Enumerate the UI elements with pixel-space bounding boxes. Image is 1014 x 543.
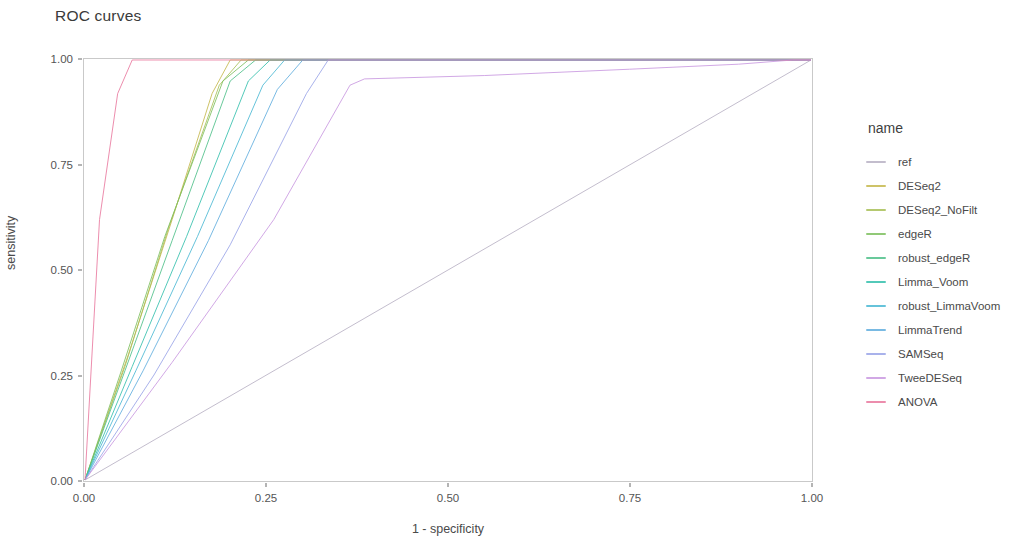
legend-item-limma-voom[interactable]: Limma_Voom bbox=[866, 270, 1014, 294]
x-axis-title: 1 - specificity bbox=[412, 522, 484, 536]
y-tick-label: 1.00 bbox=[27, 53, 73, 65]
x-tick-mark bbox=[84, 483, 85, 487]
legend-color-swatch bbox=[866, 233, 886, 235]
x-tick-mark bbox=[812, 483, 813, 487]
y-tick-label: 0.75 bbox=[27, 159, 73, 171]
y-tick-label: 0.00 bbox=[27, 475, 73, 487]
legend-item-label: DESeq2 bbox=[898, 180, 941, 192]
legend-title: name bbox=[868, 120, 1014, 136]
legend-color-swatch bbox=[866, 209, 886, 211]
legend-item-robust-edger[interactable]: robust_edgeR bbox=[866, 246, 1014, 270]
legend-item-ref[interactable]: ref bbox=[866, 150, 1014, 174]
legend-color-swatch bbox=[866, 377, 886, 379]
legend-item-label: robust_LimmaVoom bbox=[898, 300, 1000, 312]
x-tick-label: 0.50 bbox=[418, 492, 478, 504]
legend: name refDESeq2DESeq2_NoFiltedgeRrobust_e… bbox=[866, 120, 1014, 414]
x-tick-mark bbox=[266, 483, 267, 487]
legend-color-swatch bbox=[866, 353, 886, 355]
legend-color-swatch bbox=[866, 281, 886, 283]
y-tick-mark bbox=[78, 375, 82, 376]
legend-color-swatch bbox=[866, 257, 886, 259]
legend-item-limmatrend[interactable]: LimmaTrend bbox=[866, 318, 1014, 342]
legend-item-label: Limma_Voom bbox=[898, 276, 968, 288]
page-title: ROC curves bbox=[55, 7, 141, 25]
y-tick-mark bbox=[78, 270, 82, 271]
y-tick-mark bbox=[78, 164, 82, 165]
y-tick-mark bbox=[78, 59, 82, 60]
y-tick-mark bbox=[78, 481, 82, 482]
legend-item-label: SAMSeq bbox=[898, 348, 943, 360]
roc-curves-plot: ROC curves sensitivity 1 - specificity 0… bbox=[0, 0, 1014, 543]
roc-curves-canvas bbox=[84, 59, 812, 481]
legend-item-label: DESeq2_NoFilt bbox=[898, 204, 977, 216]
y-tick-label: 0.50 bbox=[27, 264, 73, 276]
legend-color-swatch bbox=[866, 401, 886, 403]
legend-color-swatch bbox=[866, 185, 886, 187]
y-tick-label: 0.25 bbox=[27, 370, 73, 382]
legend-items: refDESeq2DESeq2_NoFiltedgeRrobust_edgeRL… bbox=[866, 150, 1014, 414]
legend-item-label: LimmaTrend bbox=[898, 324, 962, 336]
x-tick-label: 0.75 bbox=[600, 492, 660, 504]
legend-item-label: TweeDESeq bbox=[898, 372, 962, 384]
plot-panel bbox=[83, 58, 813, 482]
legend-item-robust-limmavoom[interactable]: robust_LimmaVoom bbox=[866, 294, 1014, 318]
x-tick-mark bbox=[448, 483, 449, 487]
x-tick-label: 0.25 bbox=[236, 492, 296, 504]
legend-item-label: ANOVA bbox=[898, 396, 937, 408]
legend-item-label: edgeR bbox=[898, 228, 932, 240]
legend-item-edger[interactable]: edgeR bbox=[866, 222, 1014, 246]
legend-color-swatch bbox=[866, 161, 886, 163]
legend-item-tweedeseq[interactable]: TweeDESeq bbox=[866, 366, 1014, 390]
x-tick-label: 1.00 bbox=[782, 492, 842, 504]
legend-color-swatch bbox=[866, 305, 886, 307]
x-tick-label: 0.00 bbox=[54, 492, 114, 504]
legend-item-samseq[interactable]: SAMSeq bbox=[866, 342, 1014, 366]
legend-item-deseq2-nofilt[interactable]: DESeq2_NoFilt bbox=[866, 198, 1014, 222]
legend-item-label: ref bbox=[898, 156, 911, 168]
x-tick-mark bbox=[630, 483, 631, 487]
legend-item-label: robust_edgeR bbox=[898, 252, 970, 264]
legend-item-deseq2[interactable]: DESeq2 bbox=[866, 174, 1014, 198]
legend-item-anova[interactable]: ANOVA bbox=[866, 390, 1014, 414]
legend-color-swatch bbox=[866, 329, 886, 331]
y-axis-title: sensitivity bbox=[4, 216, 18, 270]
